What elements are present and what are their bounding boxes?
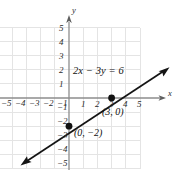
plotted-line-2x-3y-6 xyxy=(21,67,170,165)
x-tick-label-1: 1 xyxy=(81,100,86,109)
x-tick-label-5: 5 xyxy=(137,100,142,109)
y-tick-label--4: −4 xyxy=(57,145,68,154)
y-tick-label-4: 4 xyxy=(59,38,64,47)
y-tick-label-5: 5 xyxy=(59,24,64,33)
y-tick-label--5: −5 xyxy=(57,159,68,168)
y-tick-label--3: −3 xyxy=(57,131,68,140)
y-tick-label-1: 1 xyxy=(59,80,64,89)
coordinate-plane xyxy=(0,0,178,177)
point-label-x-intercept: (3, 0) xyxy=(102,107,124,117)
equation-label: 2x − 3y = 6 xyxy=(73,66,124,77)
x-tick-label--2: −2 xyxy=(43,99,54,108)
x-axis-label: x xyxy=(168,89,172,98)
x-tick-label--4: −4 xyxy=(15,99,26,108)
point-label-y-intercept: (0, −2) xyxy=(74,128,102,138)
graph-figure: −5 −4 −3 −2 −1 1 2 3 4 5 5 4 3 2 1 −1 −2… xyxy=(0,0,178,177)
y-tick-label--1: −1 xyxy=(57,103,68,112)
x-tick-label-2: 2 xyxy=(95,100,100,109)
y-tick-label-3: 3 xyxy=(59,52,64,61)
y-tick-label--2: −2 xyxy=(57,117,68,126)
y-axis-label: y xyxy=(72,6,76,15)
x-tick-label--5: −5 xyxy=(1,99,12,108)
x-tick-label--3: −3 xyxy=(29,99,40,108)
y-tick-label-2: 2 xyxy=(59,66,64,75)
